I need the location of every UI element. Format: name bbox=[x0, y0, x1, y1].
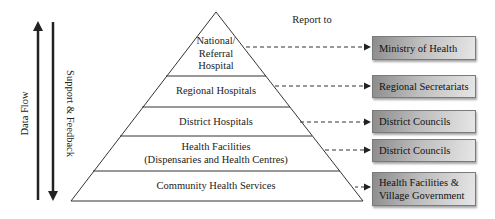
box-regional-secretariats: Regional Secretariats bbox=[372, 75, 476, 98]
data-flow-label: Data Flow bbox=[19, 88, 30, 140]
box-district-councils-2: District Councils bbox=[372, 139, 476, 162]
support-feedback-label: Support & Feedback bbox=[65, 66, 76, 161]
box-health-facilities-village-government: Health Facilities & Village Government bbox=[372, 172, 476, 206]
level-regional-hospitals: Regional Hospitals bbox=[156, 85, 276, 98]
box-ministry-of-health: Ministry of Health bbox=[372, 36, 476, 60]
level-district-hospitals: District Hospitals bbox=[146, 116, 286, 129]
box-district-councils-1: District Councils bbox=[372, 110, 476, 133]
report-to-label: Report to bbox=[282, 14, 342, 27]
level-community-health-services: Community Health Services bbox=[136, 180, 296, 193]
level-health-facilities: Health Facilities (Dispensaries and Heal… bbox=[126, 141, 306, 166]
level-national-referral-hospital: National/ Referral Hospital bbox=[176, 35, 256, 73]
